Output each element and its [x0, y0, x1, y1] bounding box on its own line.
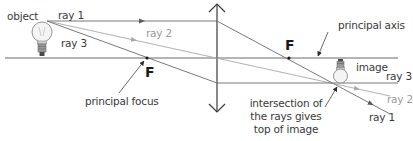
principal-axis-pointer [318, 32, 328, 56]
ray-3-label-start: ray 3 [61, 38, 87, 49]
intersection-caption-line-1: intersection of [249, 97, 323, 110]
focus-left-label: F [145, 65, 154, 79]
ray-1-label-end: ray 1 [369, 112, 395, 123]
principal-focus-pointer [119, 61, 144, 93]
intersection-caption: intersection of the rays gives top of im… [249, 97, 323, 136]
focus-point-right [287, 56, 290, 59]
ray-2-label-end: ray 2 [387, 94, 413, 105]
intersection-caption-line-3: top of image [249, 123, 323, 136]
principal-focus-label: principal focus [85, 96, 159, 107]
intersection-pointer [325, 87, 337, 107]
object-bulb-icon [32, 22, 52, 56]
principal-axis-label: principal axis [338, 20, 405, 31]
focus-right-label: F [285, 38, 294, 52]
ray-2-label-start: ray 2 [146, 28, 172, 39]
ray-1-label-start: ray 1 [58, 10, 84, 21]
focus-point-left [145, 56, 148, 59]
intersection-caption-line-2: the rays gives [249, 110, 323, 123]
image-bulb-icon [334, 59, 348, 83]
image-label: image [356, 62, 388, 73]
ray-3-label-end: ray 3 [386, 71, 412, 82]
object-label: object [7, 11, 38, 22]
